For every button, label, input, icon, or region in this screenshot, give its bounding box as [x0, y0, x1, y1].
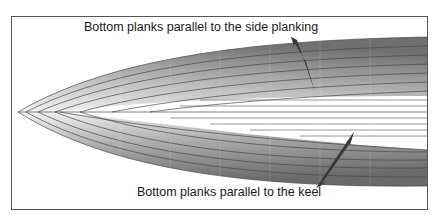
bottom-label: Bottom planks parallel to the keel [137, 185, 321, 199]
top-label: Bottom planks parallel to the side plank… [84, 20, 318, 34]
hull-planking-diagram: Bottom planks parallel to the side plank… [0, 0, 440, 218]
